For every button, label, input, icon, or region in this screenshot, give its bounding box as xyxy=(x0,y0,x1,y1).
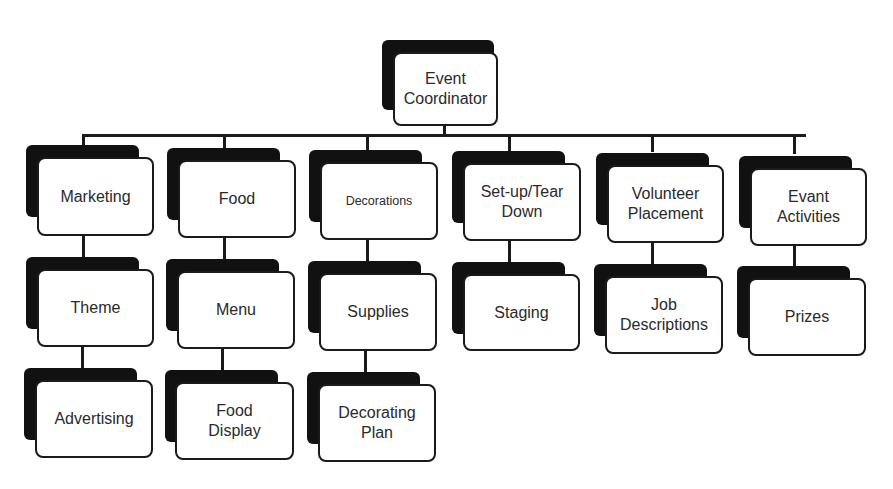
node-box: Prizes xyxy=(748,278,866,356)
connector-activities xyxy=(793,134,796,154)
node-box: Decorations xyxy=(320,162,438,240)
connector-marketing-theme xyxy=(82,234,85,258)
node-label: Supplies xyxy=(347,302,408,322)
node-label: Theme xyxy=(71,298,121,318)
connector-decorations xyxy=(366,134,369,150)
node-label: Set-up/Tear Down xyxy=(481,182,564,222)
node-label: Marketing xyxy=(60,187,130,207)
node-box: Marketing xyxy=(37,157,154,236)
node-box: Decorating Plan xyxy=(318,384,436,462)
node-box: Advertising xyxy=(35,380,153,458)
node-box: Event Coordinator xyxy=(393,52,498,126)
node-box: Job Descriptions xyxy=(605,276,723,354)
connector-decorations-supplies xyxy=(366,237,369,261)
node-label: Menu xyxy=(216,300,256,320)
node-label: Volunteer Placement xyxy=(628,184,704,224)
connector-volunteer-job xyxy=(651,241,654,265)
node-label: Decorating Plan xyxy=(338,403,415,443)
node-label: Event Coordinator xyxy=(404,69,488,109)
connector-supplies-decoratingplan xyxy=(364,349,367,373)
node-box: Staging xyxy=(463,274,580,351)
node-box: Food Display xyxy=(175,382,294,460)
node-label: Advertising xyxy=(54,409,133,429)
connector-menu-fooddisplay xyxy=(221,347,224,371)
node-box: Set-up/Tear Down xyxy=(463,163,581,241)
node-label: Prizes xyxy=(785,307,829,327)
node-label: Food Display xyxy=(208,401,260,441)
node-label: Job Descriptions xyxy=(620,295,708,335)
node-box: Food xyxy=(178,160,296,238)
connector-activities-prizes xyxy=(793,244,796,268)
connector-food-menu xyxy=(223,236,226,260)
node-label: Decorations xyxy=(346,191,413,211)
node-label: Staging xyxy=(494,303,548,323)
connector-setup xyxy=(508,134,511,151)
node-box: Theme xyxy=(37,269,154,347)
node-label: Food xyxy=(219,189,255,209)
node-box: Evant Activities xyxy=(750,168,867,246)
node-box: Volunteer Placement xyxy=(607,165,724,243)
connector-horizontal-bus xyxy=(82,134,806,137)
connector-setup-staging xyxy=(508,239,511,263)
connector-volunteer xyxy=(651,134,654,152)
node-box: Menu xyxy=(177,271,295,349)
node-label: Evant Activities xyxy=(777,187,840,227)
connector-food xyxy=(223,134,226,148)
node-box: Supplies xyxy=(319,273,437,351)
connector-theme-advertising xyxy=(81,345,84,369)
